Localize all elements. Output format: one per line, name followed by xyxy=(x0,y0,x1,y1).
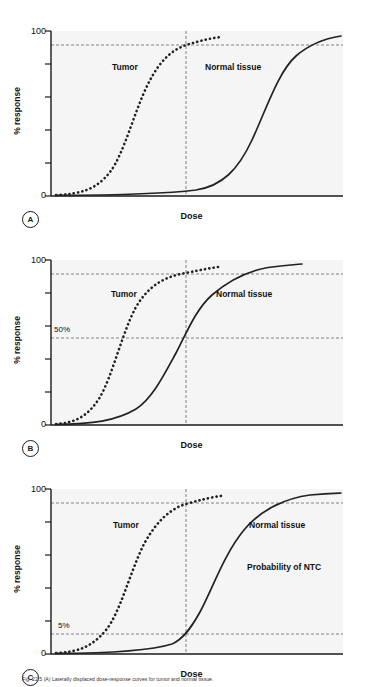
plot-background xyxy=(51,260,343,425)
plot-background xyxy=(51,31,343,196)
label-normal-tissue: Normal tissue xyxy=(216,289,272,299)
panel-tag-a: A xyxy=(22,211,39,228)
y-tick-label-100: 100 xyxy=(20,484,46,494)
x-axis-title: Dose xyxy=(0,440,365,450)
panel-tag-b: B xyxy=(22,440,39,457)
y-axis-ticks xyxy=(45,260,51,425)
y-tick-label-0: 0 xyxy=(20,190,46,200)
y-tick-label-100: 100 xyxy=(20,255,46,265)
label-normal-tissue: Normal tissue xyxy=(205,62,261,72)
y-tick-label-100: 100 xyxy=(20,26,46,36)
panel-b: 100 0 % response Dose 50% Tumor Normal t… xyxy=(0,229,365,458)
label-tumor: Tumor xyxy=(113,520,139,530)
y-tick-label-0: 0 xyxy=(20,419,46,429)
figure-caption: Fig. 22.5 (A) Laterally displaced dose-r… xyxy=(22,676,352,687)
label-tumor: Tumor xyxy=(112,62,138,72)
label-probability-of-ntc: Probability of NTC xyxy=(247,562,321,572)
panel-c-plot xyxy=(0,458,365,687)
y-axis-title: % response xyxy=(12,61,22,161)
panel-b-plot xyxy=(0,229,365,458)
label-normal-tissue: Normal tissue xyxy=(249,520,305,530)
y-axis-title: % response xyxy=(12,519,22,619)
y-axis-title: % response xyxy=(12,290,22,390)
y-axis-ticks xyxy=(45,31,51,196)
y-axis-ticks xyxy=(45,489,51,654)
panel-c: 100 0 % response Dose 5% Tumor Normal ti… xyxy=(0,458,365,687)
figure-dose-response: 100 0 % response Dose Tumor Normal tissu… xyxy=(0,0,365,687)
level-label-5-percent: 5% xyxy=(58,621,70,630)
y-tick-label-0: 0 xyxy=(20,648,46,658)
x-axis-title: Dose xyxy=(0,211,365,221)
level-label-50-percent: 50% xyxy=(54,325,70,334)
panel-a-plot xyxy=(0,0,365,229)
label-tumor: Tumor xyxy=(111,289,137,299)
panel-a: 100 0 % response Dose Tumor Normal tissu… xyxy=(0,0,365,229)
